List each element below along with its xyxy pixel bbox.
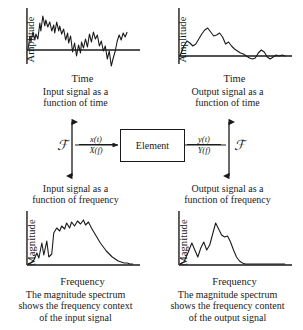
fourier-symbol-right: ℱ: [234, 137, 245, 154]
element-block-label: Element: [136, 140, 169, 151]
plot-input-time: Amplitude Time Input signal as a functio…: [0, 6, 151, 109]
plot-output-spectrum-area: Magnitude: [174, 209, 295, 275]
input-time-symbol: x(t): [79, 135, 113, 145]
plot-input-spectrum-x-label: Frequency: [0, 276, 151, 287]
plot-input-spectrum: Magnitude Frequency The magnitude spectr…: [0, 209, 151, 323]
signal-flow-diagram: Amplitude Time Input signal as a functio…: [0, 0, 303, 330]
plot-output-time-area: Amplitude: [174, 6, 295, 72]
output-freq-symbol: Y(f): [187, 145, 221, 155]
plot-input-time-caption: Input signal as a function of time: [0, 86, 151, 109]
plot-input-spectrum-caption: The magnitude spectrum shows the frequen…: [0, 289, 151, 323]
output-time-symbol: y(t): [187, 135, 221, 145]
plot-input-time-area: Amplitude: [22, 6, 143, 72]
plot-output-spectrum-caption: The magnitude spectrum shows the frequen…: [152, 289, 303, 323]
input-freq-symbol: X(f): [79, 145, 113, 155]
plot-output-time-svg: [174, 6, 295, 72]
output-signal-label: y(t) Y(f): [187, 135, 221, 155]
fourier-symbol-left: ℱ: [57, 137, 68, 154]
plot-output-time-caption: Output signal as a function of time: [152, 86, 303, 109]
plot-input-time-svg: [22, 6, 143, 72]
output-time-waveform: [180, 28, 285, 59]
input-spectrum-curve: [28, 220, 133, 264]
plot-input-time-x-label: Time: [0, 73, 151, 84]
plot-output-spectrum-svg: [174, 209, 295, 275]
block-diagram-row: ℱ ℱ x(t) X(f) y(t) Y(f) Element: [0, 118, 303, 180]
input-signal-label: x(t) X(f): [79, 135, 113, 155]
plot-input-spectrum-area: Magnitude: [22, 209, 143, 275]
caption-input-frequency: Input signal as a function of frequency: [0, 183, 151, 206]
plot-output-time-x-label: Time: [152, 73, 303, 84]
element-block: Element: [120, 129, 185, 162]
input-time-waveform: [28, 16, 127, 66]
plot-output-spectrum: Magnitude Frequency The magnitude spectr…: [152, 209, 303, 323]
caption-output-frequency: Output signal as a function of frequency: [152, 183, 303, 206]
plot-output-spectrum-x-label: Frequency: [152, 276, 303, 287]
output-spectrum-curve: [180, 223, 285, 264]
plot-output-time: Amplitude Time Output signal as a functi…: [152, 6, 303, 109]
plot-input-spectrum-svg: [22, 209, 143, 275]
